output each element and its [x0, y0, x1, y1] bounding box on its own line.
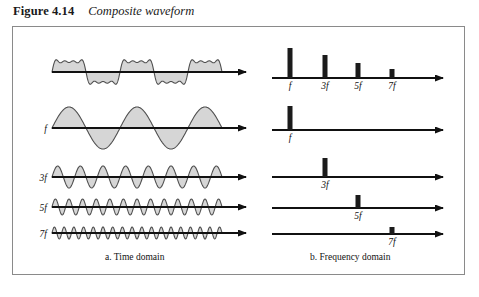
frequency-tick-label-3f: 3f — [320, 81, 330, 91]
spectral-line-7f — [390, 69, 395, 78]
frequency-tick-label-5f: 5f — [354, 211, 363, 221]
frequency-tick-label-3f: 3f — [320, 180, 330, 190]
time-domain-panel: f3f5f7f — [39, 60, 246, 239]
time-domain-row-seventh: 7f — [40, 227, 246, 239]
frequency-tick-label-f: f — [289, 133, 293, 143]
time-row-label-fundamental: f — [44, 124, 48, 134]
figure-root: Figure 4.14Composite waveform f3f5f7f f3… — [0, 0, 479, 297]
frequency-domain-row-third-spectrum: 3f — [272, 158, 443, 190]
spectral-line-3f — [323, 55, 328, 78]
frequency-domain-row-seventh-spectrum: 7f — [272, 227, 443, 247]
frequency-domain-row-composite-spectrum: f3f5f7f — [272, 48, 443, 91]
figure-graphics: f3f5f7f f3f5f7ff3f5f7f — [0, 0, 479, 297]
frequency-domain-caption: b. Frequency domain — [310, 252, 390, 262]
spectral-line-3f — [323, 158, 328, 177]
time-domain-row-third: 3f — [39, 166, 246, 188]
frequency-domain-row-fundamental-spectrum: f — [272, 106, 443, 143]
frequency-tick-label-7f: 7f — [388, 237, 397, 247]
time-domain-row-fundamental: f — [44, 107, 246, 149]
time-domain-row-composite — [52, 60, 246, 84]
time-domain-caption: a. Time domain — [105, 252, 164, 262]
frequency-domain-panel: f3f5f7ff3f5f7f — [272, 48, 443, 247]
time-row-label-third: 3f — [39, 173, 49, 183]
time-domain-row-fifth: 5f — [40, 199, 246, 215]
frequency-tick-label-f: f — [289, 81, 293, 91]
spectral-line-5f — [356, 63, 361, 78]
time-row-label-seventh: 7f — [40, 229, 49, 239]
spectral-line-f — [288, 48, 293, 78]
spectral-line-f — [288, 106, 293, 130]
frequency-tick-label-7f: 7f — [388, 81, 397, 91]
frequency-domain-row-fifth-spectrum: 5f — [272, 195, 443, 221]
spectral-line-7f — [390, 227, 395, 234]
frequency-tick-label-5f: 5f — [354, 81, 363, 91]
time-row-label-fifth: 5f — [40, 203, 49, 213]
spectral-line-5f — [356, 195, 361, 208]
